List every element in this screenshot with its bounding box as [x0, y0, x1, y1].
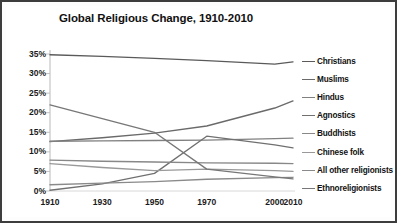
line-chart-svg [46, 50, 295, 195]
legend-line-icon [302, 133, 315, 134]
legend-item[interactable]: Ethnoreligionists [302, 179, 397, 197]
x-tick-label: 1910 [41, 197, 60, 207]
x-tick-label: 2000 [265, 197, 284, 207]
legend-item[interactable]: Hindus [302, 88, 397, 106]
legend-label: Christians [317, 57, 356, 66]
plot-area [46, 50, 295, 195]
x-tick-label: 1970 [197, 197, 216, 207]
legend-line-icon [302, 152, 315, 153]
legend-line-icon [302, 79, 315, 80]
y-tick-label: 10% [12, 146, 46, 156]
series-line-chinese-folk [50, 164, 293, 172]
legend-line-icon [302, 97, 315, 98]
legend-line-icon [302, 115, 315, 116]
legend-label: Chinese folk [317, 148, 364, 157]
chart-legend: ChristiansMuslimsHindusAgnosticsBuddhist… [302, 52, 397, 198]
y-tick-label: 0% [12, 186, 46, 196]
legend-label: Buddhists [317, 129, 356, 138]
legend-item[interactable]: Agnostics [302, 107, 397, 125]
x-axis: 191019301950197020002010 [6, 197, 306, 215]
y-tick-label: 15% [12, 127, 46, 137]
legend-label: All other religionists [317, 166, 393, 175]
chart-canvas: Global Religious Change, 1910-2010 0%5%1… [6, 6, 391, 217]
series-line-all-other-religionists [50, 177, 293, 184]
y-tick-label: 35% [12, 49, 46, 59]
legend-label: Agnostics [317, 111, 355, 120]
x-tick-label: 1950 [145, 197, 164, 207]
x-tick-label: 1930 [93, 197, 112, 207]
y-tick-marks [46, 54, 50, 191]
legend-label: Hindus [317, 93, 344, 102]
y-tick-label: 20% [12, 107, 46, 117]
legend-item[interactable]: Christians [302, 52, 397, 70]
series-lines [50, 55, 293, 190]
legend-line-icon [302, 188, 315, 189]
series-line-christians [50, 55, 293, 64]
series-line-muslims [50, 101, 293, 142]
legend-label: Ethnoreligionists [317, 184, 381, 193]
chart-title: Global Religious Change, 1910-2010 [6, 12, 306, 24]
y-tick-label: 30% [12, 68, 46, 78]
legend-item[interactable]: Chinese folk [302, 143, 397, 161]
legend-line-icon [302, 170, 315, 171]
legend-item[interactable]: Muslims [302, 70, 397, 88]
y-tick-label: 25% [12, 88, 46, 98]
y-axis: 0%5%10%15%20%25%30%35% [6, 6, 46, 217]
legend-line-icon [302, 61, 315, 62]
y-tick-label: 5% [12, 166, 46, 176]
legend-item[interactable]: All other religionists [302, 161, 397, 179]
x-tick-label: 2010 [284, 197, 303, 207]
legend-item[interactable]: Buddhists [302, 125, 397, 143]
legend-label: Muslims [317, 75, 349, 84]
chart-frame: Global Religious Change, 1910-2010 0%5%1… [0, 0, 397, 223]
